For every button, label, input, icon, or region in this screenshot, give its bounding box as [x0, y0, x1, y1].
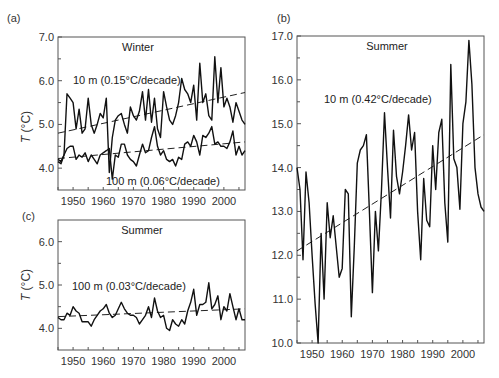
y-tick-label: 16.0: [272, 74, 293, 86]
x-tick-label: 1960: [330, 348, 354, 360]
x-tick-label: 2000: [451, 348, 475, 360]
x-tick-label: 1970: [360, 348, 384, 360]
x-tick-label: 2000: [212, 355, 236, 367]
panel-c-annotation-100m: 100 m (0.03°C/decade): [72, 280, 186, 292]
y-tick-label: 4.0: [39, 322, 54, 334]
panel-a-title: Winter: [122, 41, 154, 53]
panel-c-y-axis-label: T (°C): [19, 269, 33, 301]
y-tick-label: 13.0: [272, 205, 293, 217]
y-tick-label: 6.0: [39, 75, 54, 87]
figure: (a) 4.05.06.07.0 19501960197019801990200…: [0, 0, 499, 378]
data-series-line: [58, 127, 245, 180]
panel-c-title: Summer: [121, 224, 163, 236]
x-tick-label: 1950: [61, 195, 85, 207]
panel-a-annotation-10m: 10 m (0.15°C/decade): [73, 74, 181, 86]
y-tick-label: 5.0: [39, 118, 54, 130]
x-tick-label: 1970: [121, 195, 145, 207]
x-tick-label: 1950: [300, 348, 324, 360]
y-tick-label: 6.0: [39, 236, 54, 248]
panel-c-y-ticks: 4.05.06.0: [39, 236, 62, 335]
panel-a-y-axis-label: T (°C): [19, 111, 33, 143]
y-tick-label: 14.0: [272, 162, 293, 174]
panel-a-label: (a): [7, 12, 20, 24]
trend-line: [297, 135, 484, 251]
y-tick-label: 17.0: [272, 30, 293, 42]
panel-a-annotation-100m: 100 m (0.06°C/decade): [106, 175, 220, 187]
panel-a: (a) 4.05.06.07.0 19501960197019801990200…: [7, 12, 245, 207]
x-tick-label: 1960: [91, 355, 115, 367]
x-tick-label: 1980: [390, 348, 414, 360]
x-tick-label: 1990: [181, 195, 205, 207]
y-tick-label: 4.0: [39, 162, 54, 174]
panel-c-label: (c): [22, 210, 35, 222]
x-tick-label: 2000: [212, 195, 236, 207]
panel-b-title: Summer: [366, 40, 408, 52]
x-tick-label: 1990: [181, 355, 205, 367]
y-tick-label: 11.0: [272, 293, 293, 305]
x-tick-label: 1960: [91, 195, 115, 207]
panel-b-label: (b): [277, 12, 290, 24]
y-tick-label: 12.0: [272, 249, 293, 261]
y-tick-label: 7.0: [39, 31, 54, 43]
panel-c: (c) 4.05.06.0 195019601970198019902000 S…: [19, 210, 245, 367]
panel-b-series: [297, 40, 484, 343]
x-tick-label: 1970: [121, 355, 145, 367]
x-tick-label: 1950: [61, 355, 85, 367]
y-tick-label: 5.0: [39, 279, 54, 291]
x-tick-label: 1990: [420, 348, 444, 360]
x-tick-label: 1980: [151, 355, 175, 367]
data-series-line: [297, 40, 484, 343]
y-tick-label: 10.0: [272, 337, 293, 349]
panel-b: (b) 10.011.012.013.014.015.016.017.0 195…: [272, 12, 484, 360]
y-tick-label: 15.0: [272, 118, 293, 130]
panel-b-frame: [297, 36, 484, 343]
x-tick-label: 1980: [151, 195, 175, 207]
panel-b-annotation-10m: 10 m (0.42°C/decade): [324, 93, 432, 105]
panel-a-y-ticks: 4.05.06.07.0: [39, 31, 62, 174]
